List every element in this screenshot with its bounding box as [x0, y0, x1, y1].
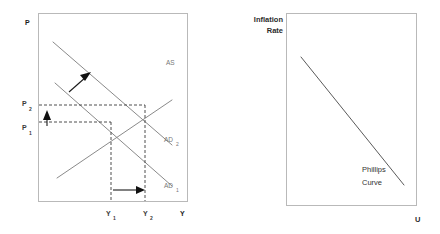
as-curve-label: AS: [166, 59, 175, 66]
u-axis-label: U: [415, 215, 420, 224]
phillips-curve-label-line2: Curve: [362, 178, 382, 187]
ad1-curve-label-subscript: 1: [176, 187, 179, 193]
p2-tick-label: P: [22, 100, 27, 107]
inflation-rate-label-line1: Inflation: [254, 15, 284, 24]
phillips-curve-panel: Inflation Rate U Phillips Curve: [254, 14, 421, 225]
y2-tick-label-subscript: 2: [150, 215, 153, 221]
y2-tick-label: Y: [143, 210, 148, 217]
figure-canvas: P Y AS AD 2 AD 1 P 2 P 1: [0, 0, 440, 234]
ad1-curve-label: AD: [164, 182, 173, 189]
y1-tick-label-subscript: 1: [113, 215, 116, 221]
p1-tick-label-subscript: 1: [29, 130, 32, 136]
p-axis-label: P: [25, 19, 30, 26]
p2-tick-label-subscript: 2: [29, 106, 32, 112]
ad2-curve-label: AD: [164, 136, 173, 143]
economics-figure: P Y AS AD 2 AD 1 P 2 P 1: [0, 0, 440, 234]
p1-tick-label: P: [22, 124, 27, 131]
y1-tick-label: Y: [106, 210, 111, 217]
ad2-curve-label-subscript: 2: [176, 141, 179, 147]
ad-as-panel: P Y AS AD 2 AD 1 P 2 P 1: [22, 14, 188, 222]
inflation-rate-label-line2: Rate: [267, 26, 283, 35]
ad-as-panel-frame: [39, 14, 188, 202]
y-axis-label: Y: [180, 210, 185, 217]
phillips-curve-label-line1: Phillips: [362, 165, 386, 174]
